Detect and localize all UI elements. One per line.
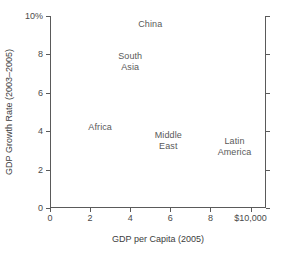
data-point-label: Middle East [155,130,182,152]
data-point-label: China [138,18,162,29]
y-tick-mark-right [266,93,270,94]
x-tick-mark [170,208,171,212]
x-tick-mark [251,208,252,212]
data-point-label: Africa [88,122,112,133]
x-tick-label: $10,000 [234,213,267,223]
y-tick-label: 6 [38,88,43,98]
y-tick-mark-right [266,170,270,171]
x-axis-line [50,207,266,208]
y-tick-label: 4 [38,126,43,136]
plot-area: 0246810%02468$10,000ChinaSouth AsiaAfric… [50,16,266,208]
data-point-label: South Asia [118,51,142,73]
x-tick-mark [50,208,51,212]
y-tick-mark [46,93,50,94]
y-tick-mark [46,16,50,17]
right-axis-line [265,16,266,208]
scatter-chart: GDP Growth Rate (2003–2005) 0246810%0246… [0,0,281,259]
y-tick-mark-right [266,131,270,132]
y-tick-label: 2 [38,165,43,175]
x-tick-label: 2 [88,213,93,223]
x-axis-title: GDP per Capita (2005) [50,234,266,244]
data-point-label: Latin America [218,136,252,158]
x-tick-label: 4 [128,213,133,223]
y-tick-mark [46,170,50,171]
x-tick-label: 0 [47,213,52,223]
y-tick-mark [46,131,50,132]
x-tick-label: 8 [208,213,213,223]
y-axis-line [50,16,51,208]
y-tick-mark-right [266,54,270,55]
y-axis-title-text: GDP Growth Rate (2003–2005) [4,49,14,175]
y-tick-label: 0 [38,203,43,213]
x-tick-mark [130,208,131,212]
y-axis-title: GDP Growth Rate (2003–2005) [2,16,15,208]
y-tick-label: 10% [25,11,43,21]
y-tick-mark-right [266,208,270,209]
x-tick-mark [90,208,91,212]
y-tick-mark-right [266,16,270,17]
x-tick-label: 6 [168,213,173,223]
y-tick-mark [46,54,50,55]
y-tick-label: 8 [38,49,43,59]
x-tick-mark [210,208,211,212]
